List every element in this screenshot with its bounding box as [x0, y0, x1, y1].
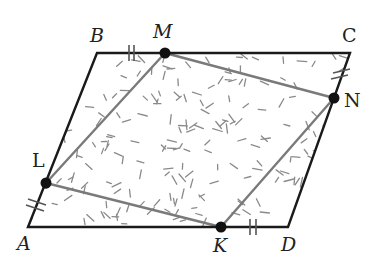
parallelogram-abcd [28, 53, 350, 227]
label-c: C [342, 24, 357, 46]
point-n [329, 93, 340, 104]
diagram-canvas: B M C N L A K D [0, 0, 383, 269]
label-k: K [212, 234, 229, 256]
equal-ticks-cn [331, 69, 350, 79]
point-l [41, 178, 52, 189]
label-a: A [15, 232, 31, 254]
label-d: D [280, 233, 296, 255]
inner-quadrilateral-mnkl [46, 53, 334, 227]
label-m: M [152, 20, 173, 42]
point-m [160, 48, 171, 59]
label-b: B [89, 24, 104, 46]
label-l: L [32, 149, 45, 171]
hatch-texture [29, 54, 352, 227]
label-n: N [344, 89, 361, 111]
point-k [216, 222, 227, 233]
